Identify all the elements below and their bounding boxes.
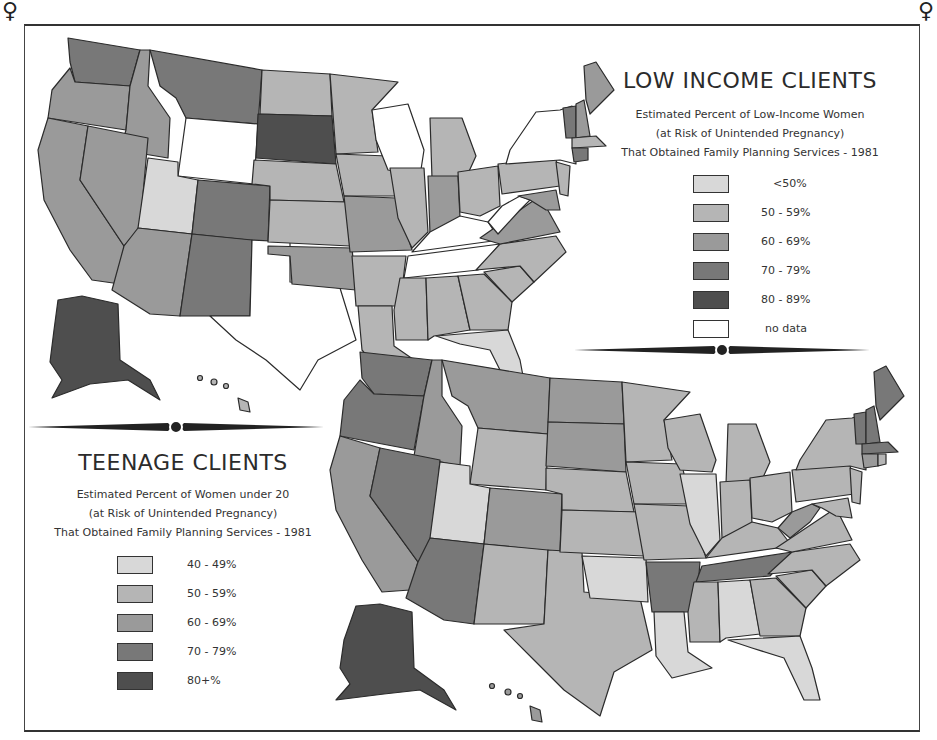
teenage-legend: 40 - 49% 50 - 59% 60 - 69% 70 - 79% 80+% (117, 556, 297, 701)
state-nm-teen (474, 544, 548, 624)
teenage-subtitle-line: That Obtained Family Planning Services -… (28, 523, 338, 542)
state-co-teen (484, 488, 562, 552)
state-sd-teen (546, 422, 626, 472)
state-oh-teen (750, 472, 792, 522)
teenage-subtitle-line: (at Risk of Unintended Pregnancy) (28, 504, 338, 523)
state-ok-teen (582, 556, 648, 602)
legend-item: 60 - 69% (117, 614, 297, 643)
state-wy-low (178, 118, 258, 184)
low-income-subtitle: Estimated Percent of Low-Income Women (a… (590, 105, 910, 162)
low-income-subtitle-line: That Obtained Family Planning Services -… (590, 143, 910, 162)
legend-label: no data (765, 322, 807, 335)
state-hi-islet-low (198, 376, 203, 381)
legend-label: 70 - 79% (761, 264, 810, 277)
teenage-subtitle: Estimated Percent of Women under 20 (at … (28, 485, 338, 542)
state-nd-teen (548, 378, 624, 424)
legend-swatch (117, 643, 153, 661)
state-ct-low (572, 148, 588, 162)
state-wa-teen (360, 352, 432, 396)
legend-item: 60 - 69% (693, 233, 873, 262)
legend-label: 60 - 69% (187, 616, 236, 629)
teenage-subtitle-line: Estimated Percent of Women under 20 (28, 485, 338, 504)
legend-swatch (693, 233, 729, 251)
state-co-low (192, 180, 270, 242)
legend-label: 80+% (187, 674, 221, 687)
state-wy-teen (470, 428, 548, 490)
state-sd-low (256, 114, 336, 164)
legend-swatch (117, 672, 153, 690)
legend-label: 70 - 79% (187, 645, 236, 658)
state-ms-low (394, 278, 428, 340)
legend-swatch (693, 291, 729, 309)
state-oh-low (458, 166, 500, 216)
legend-item: 70 - 79% (117, 643, 297, 672)
teenage-map (330, 352, 904, 722)
state-mi-teen (726, 424, 770, 484)
legend-label: 40 - 49% (187, 558, 236, 571)
legend-item: 70 - 79% (693, 262, 873, 291)
state-nm-low (180, 234, 252, 316)
legend-label: 80 - 89% (761, 293, 810, 306)
legend-swatch (693, 204, 729, 222)
legend-item: 50 - 59% (693, 204, 873, 233)
state-hi-islet-low (224, 384, 229, 389)
divider-ornament-teen (28, 421, 324, 433)
low-income-map (38, 38, 614, 412)
legend-label: 50 - 59% (187, 587, 236, 600)
legend-swatch (117, 585, 153, 603)
state-ks-low (268, 200, 350, 246)
legend-label: <50% (773, 177, 807, 190)
legend-item: 80 - 89% (693, 291, 873, 320)
teenage-title: TEENAGE CLIENTS (38, 450, 328, 475)
legend-swatch (117, 556, 153, 574)
state-me-teen (874, 366, 904, 420)
low-income-legend: <50% 50 - 59% 60 - 69% 70 - 79% 80 - 89%… (693, 175, 873, 349)
legend-swatch (693, 175, 729, 193)
state-nd-low (260, 70, 332, 116)
legend-item: 50 - 59% (117, 585, 297, 614)
low-income-title: LOW INCOME CLIENTS (600, 68, 900, 93)
low-income-subtitle-line: (at Risk of Unintended Pregnancy) (590, 124, 910, 143)
legend-swatch (693, 320, 729, 338)
state-ri-teen (878, 454, 886, 466)
state-ak-low (50, 296, 160, 400)
state-mi-low (430, 118, 476, 178)
legend-item: <50% (693, 175, 873, 204)
state-ma-teen (862, 442, 898, 454)
state-fl-teen (728, 636, 820, 700)
state-nj-teen (850, 468, 862, 504)
legend-item: 80+% (117, 672, 297, 701)
state-vt-low (563, 106, 576, 138)
state-hi-islet-teen (518, 694, 523, 699)
state-hi-islet-teen (505, 689, 511, 695)
low-income-subtitle-line: Estimated Percent of Low-Income Women (590, 105, 910, 124)
legend-swatch (117, 614, 153, 632)
legend-label: 50 - 59% (761, 206, 810, 219)
state-ak-teen (336, 604, 456, 710)
state-hi-teen (530, 706, 542, 722)
state-vt-teen (854, 412, 866, 444)
state-ks-teen (560, 510, 644, 556)
legend-label: 60 - 69% (761, 235, 810, 248)
state-ct-teen (862, 454, 878, 468)
legend-item: no data (693, 320, 873, 349)
state-hi-islet-teen (490, 684, 495, 689)
state-wa-low (68, 38, 140, 86)
legend-swatch (693, 262, 729, 280)
state-nj-low (556, 162, 570, 196)
legend-item: 40 - 49% (117, 556, 297, 585)
state-ms-teen (688, 582, 720, 642)
state-hi-islet-low (211, 379, 217, 385)
state-hi-low (238, 398, 250, 412)
